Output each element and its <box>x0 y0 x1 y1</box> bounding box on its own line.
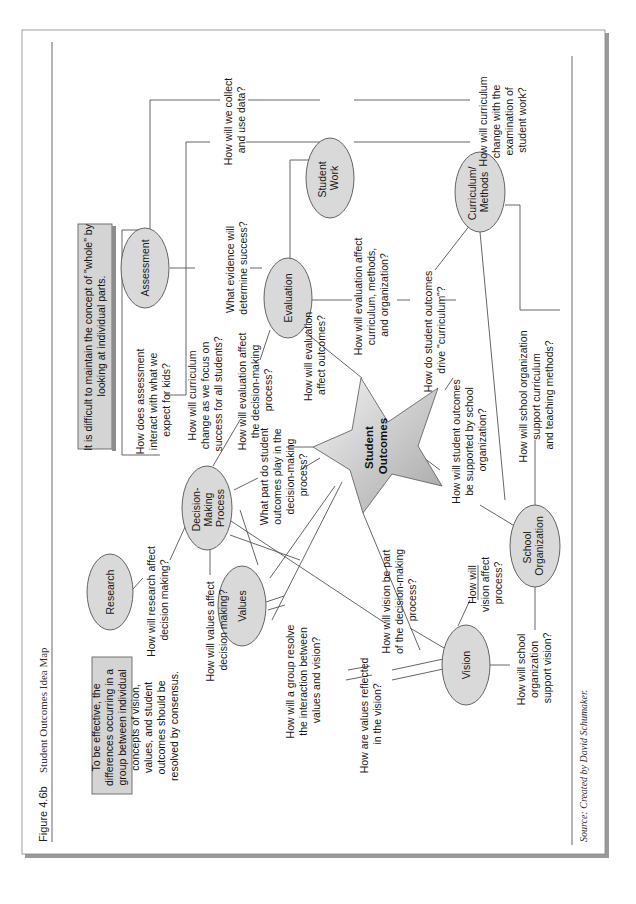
node-assessment: Assessment <box>121 228 169 308</box>
figure-number: Figure 4.6b <box>37 786 49 842</box>
question-curriculum-student-work: How will curriculum change with the exam… <box>477 74 528 167</box>
figure-title: Student Outcomes Idea Map <box>37 647 49 773</box>
node-decision-making-process: Decision- Making Process <box>182 466 232 550</box>
question-group-resolve: How will a group resolve the interaction… <box>284 622 322 739</box>
node-vision-label: Vision <box>460 651 472 680</box>
question-research-decision: How will research affect decision making… <box>145 543 170 657</box>
node-school-organization: School Organization <box>510 505 560 587</box>
question-collect-data: How will we collect and use data? <box>222 75 247 165</box>
node-vision: Vision <box>442 625 490 705</box>
node-student-work: Student Work <box>306 138 354 218</box>
question-school-org-vision: How will school organization support vis… <box>515 631 553 706</box>
question-evaluation-outcomes: How will evaluation affect outcomes? <box>302 309 327 401</box>
callout-consensus-text: To be effective, the differences occurri… <box>90 666 180 786</box>
node-evaluation-label: Evaluation <box>282 273 294 322</box>
node-decision-making-label: Decision- Making Process <box>190 485 226 532</box>
node-research: Research <box>87 554 133 630</box>
question-outcomes-drive: How do student outcomes drive "curriculu… <box>422 268 447 392</box>
question-vision-process: How will vision affect process? <box>466 554 504 612</box>
idea-map-page: Figure 4.6b Student Outcomes Idea Map So… <box>0 0 636 904</box>
callout-whole-parts: It is difficult to maintain the concept … <box>78 221 116 451</box>
question-values-decision: How will values affect decision making? <box>204 578 229 681</box>
node-curriculum-methods-label: Curriculum/ Methods <box>466 164 490 221</box>
node-values-label: Values <box>236 590 248 621</box>
node-research-label: Research <box>104 569 116 614</box>
question-curriculum-focus: How will curriculum change as we focus o… <box>186 336 224 451</box>
question-evidence-success: What evidence will determine success? <box>224 221 249 315</box>
figure-source: Source: Created by David Schumaker. <box>578 690 589 842</box>
node-assessment-label: Assessment <box>139 239 151 296</box>
